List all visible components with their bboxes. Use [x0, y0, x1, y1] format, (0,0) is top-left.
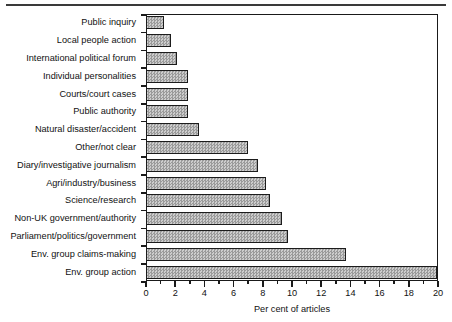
category-label: Local people action — [57, 35, 136, 45]
bar-chart-figure: Public inquiryLocal people actionInterna… — [0, 0, 452, 322]
y-axis-tick — [141, 228, 146, 230]
y-axis-tick — [141, 210, 146, 212]
x-axis-major-tick — [320, 281, 322, 287]
x-axis-tick-label: 0 — [143, 288, 148, 299]
x-axis-major-tick — [262, 281, 264, 287]
y-axis-tick — [141, 14, 146, 16]
x-axis-minor-tick — [160, 281, 162, 284]
y-axis-tick — [141, 67, 146, 69]
bar — [146, 16, 164, 29]
y-axis-tick — [141, 174, 146, 176]
x-axis-major-tick — [174, 281, 176, 287]
category-label: Natural disaster/accident — [35, 124, 136, 134]
x-axis-major-tick — [437, 281, 439, 287]
bar — [146, 34, 171, 47]
y-axis-tick — [141, 156, 146, 158]
y-axis-tick — [141, 50, 146, 52]
x-axis-minor-tick — [364, 281, 366, 284]
y-axis-tick — [141, 192, 146, 194]
x-axis-tick-label: 16 — [374, 288, 384, 299]
bar — [146, 177, 266, 190]
bar — [146, 105, 188, 118]
x-axis-tick-label: 6 — [231, 288, 236, 299]
category-label: Public inquiry — [81, 17, 136, 27]
category-label: Env. group claims-making — [31, 249, 136, 259]
y-axis-tick — [141, 32, 146, 34]
bar — [146, 52, 177, 65]
y-axis-tick — [141, 281, 146, 283]
y-axis-tick — [141, 121, 146, 123]
category-label: Parliament/politics/government — [10, 231, 136, 241]
x-axis-tick-label: 20 — [433, 288, 443, 299]
top-horizontal-rule — [6, 4, 446, 6]
x-axis-minor-tick — [277, 281, 279, 284]
x-axis-minor-tick — [335, 281, 337, 284]
x-axis-major-tick — [204, 281, 206, 287]
x-axis-minor-tick — [423, 281, 425, 284]
x-axis-tick-labels: 02468101214161820 — [146, 288, 438, 302]
x-axis-tick-label: 12 — [316, 288, 326, 299]
bar — [146, 141, 248, 154]
category-label: International political forum — [26, 53, 136, 63]
x-axis-minor-tick — [189, 281, 191, 284]
x-axis-title: Per cent of articles — [146, 304, 438, 314]
x-axis-tick-label: 2 — [173, 288, 178, 299]
bar — [146, 88, 188, 101]
category-label: Individual personalities — [43, 71, 136, 81]
category-label: Courts/court cases — [59, 89, 136, 99]
x-axis-minor-tick — [306, 281, 308, 284]
x-axis-major-tick — [379, 281, 381, 287]
bars-layer — [146, 14, 438, 281]
y-axis-tick — [141, 139, 146, 141]
bar — [146, 194, 270, 207]
bar — [146, 212, 282, 225]
category-label: Public authority — [73, 106, 136, 116]
category-label: Diary/investigative journalism — [17, 160, 136, 170]
bar — [146, 159, 258, 172]
y-axis-tick — [141, 103, 146, 105]
x-axis-tick-label: 14 — [345, 288, 355, 299]
x-axis-minor-tick — [393, 281, 395, 284]
y-axis-tick — [141, 245, 146, 247]
y-axis-tick — [141, 85, 146, 87]
bar — [146, 123, 199, 136]
x-axis-tick-label: 18 — [404, 288, 414, 299]
x-axis-tick-label: 4 — [202, 288, 207, 299]
x-axis-tick-label: 8 — [260, 288, 265, 299]
x-axis-major-tick — [233, 281, 235, 287]
category-label: Other/not clear — [75, 142, 136, 152]
category-label: Env. group action — [65, 267, 136, 277]
bar — [146, 230, 288, 243]
x-axis-minor-tick — [247, 281, 249, 284]
category-labels: Public inquiryLocal people actionInterna… — [0, 14, 143, 281]
x-axis-major-tick — [350, 281, 352, 287]
bar — [146, 70, 188, 83]
category-label: Science/research — [65, 195, 136, 205]
y-axis-tick — [141, 263, 146, 265]
x-axis-major-tick — [291, 281, 293, 287]
x-axis-major-tick — [408, 281, 410, 287]
x-axis-tick-label: 10 — [287, 288, 297, 299]
category-label: Agri/industry/business — [46, 178, 136, 188]
x-axis-minor-tick — [218, 281, 220, 284]
category-label: Non-UK government/authority — [14, 213, 136, 223]
bar — [146, 266, 437, 279]
bar — [146, 248, 346, 261]
